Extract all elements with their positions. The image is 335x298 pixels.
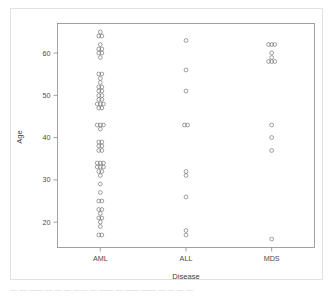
data-point	[98, 43, 102, 47]
data-point	[98, 81, 102, 85]
x-axis-title: Disease	[172, 272, 199, 281]
data-point	[184, 195, 188, 199]
data-point	[270, 123, 274, 127]
y-axis: 2030405060	[43, 49, 58, 227]
data-point	[98, 182, 102, 186]
data-point	[98, 30, 102, 34]
y-tick-label: 30	[43, 175, 51, 184]
data-point	[184, 233, 188, 237]
figure-caption-partial: — — —— — — — —— — —— — —— —— — — — —	[10, 286, 323, 295]
data-point	[270, 237, 274, 241]
data-point	[270, 56, 274, 60]
data-point	[98, 127, 102, 131]
data-point	[98, 212, 102, 216]
data-point	[184, 39, 188, 43]
x-tick-label: MDS	[264, 254, 280, 263]
data-point	[184, 174, 188, 178]
data-point	[98, 174, 102, 178]
data-point	[270, 51, 274, 55]
x-tick-label: AML	[93, 254, 108, 263]
x-tick-label: ALL	[180, 254, 193, 263]
data-point	[270, 136, 274, 140]
data-point	[98, 225, 102, 229]
data-point	[184, 229, 188, 233]
plot-frame	[58, 24, 315, 248]
data-point	[98, 220, 102, 224]
y-tick-label: 20	[43, 218, 51, 227]
data-points	[95, 30, 276, 241]
data-point	[184, 170, 188, 174]
data-point	[184, 68, 188, 72]
data-point	[98, 77, 102, 81]
data-point	[184, 89, 188, 93]
data-point	[98, 191, 102, 195]
y-tick-label: 60	[43, 49, 51, 58]
data-point	[98, 56, 102, 60]
scatter-plot: 2030405060 AMLALLMDS Disease Age	[0, 0, 335, 298]
y-tick-label: 50	[43, 91, 51, 100]
plot-canvas: 2030405060 AMLALLMDS Disease Age	[0, 0, 335, 298]
y-tick-label: 40	[43, 133, 51, 142]
y-axis-title: Age	[15, 130, 24, 144]
x-axis: AMLALLMDS	[93, 248, 280, 263]
data-point	[270, 149, 274, 153]
